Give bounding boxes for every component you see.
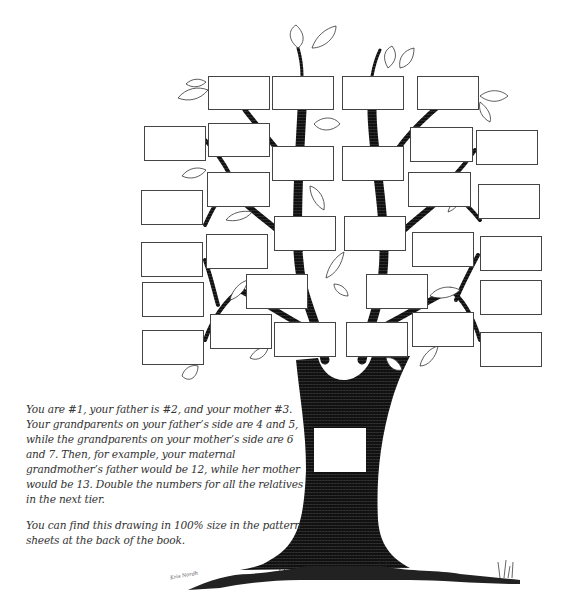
leaf <box>314 118 340 130</box>
name-box <box>478 184 540 219</box>
name-box <box>480 332 542 367</box>
name-box <box>480 236 542 271</box>
leaf <box>479 102 490 122</box>
leaf <box>480 91 508 102</box>
leaf <box>178 88 208 100</box>
name-box <box>476 130 538 165</box>
name-box <box>208 76 270 110</box>
name-box <box>412 312 474 347</box>
name-box <box>342 76 404 110</box>
ground <box>188 566 520 590</box>
name-box <box>412 232 474 267</box>
name-box <box>272 76 334 110</box>
leaf <box>186 79 206 87</box>
leaf <box>290 25 303 48</box>
instructions-caption: You are #1, your father is #2, and your … <box>26 402 306 559</box>
name-box <box>314 428 366 472</box>
name-box <box>274 216 336 251</box>
name-box <box>141 242 203 277</box>
name-box <box>480 280 542 315</box>
pattern-sheet-note: You can find this drawing in 100% size i… <box>26 518 306 548</box>
leaf <box>420 346 438 366</box>
name-box <box>342 146 404 181</box>
leaf <box>182 168 206 178</box>
name-box <box>207 172 270 207</box>
name-box <box>142 330 204 365</box>
leaf <box>312 26 336 48</box>
name-box <box>210 314 272 349</box>
leaf <box>250 347 268 359</box>
name-box <box>274 322 336 357</box>
name-box <box>408 172 471 207</box>
leaf <box>226 211 252 220</box>
leaf <box>400 48 414 68</box>
name-box <box>344 216 406 251</box>
leaf <box>326 252 344 278</box>
leaf <box>182 365 198 379</box>
name-box <box>142 282 204 317</box>
name-box <box>366 274 428 309</box>
name-box <box>417 76 479 110</box>
name-box <box>272 146 334 181</box>
name-box <box>208 123 270 157</box>
name-box <box>144 126 206 161</box>
name-box <box>141 190 203 225</box>
leaf <box>385 46 396 68</box>
name-box <box>206 234 268 269</box>
leaf <box>310 186 324 210</box>
name-box <box>410 127 473 162</box>
name-box <box>246 274 308 309</box>
numbering-instructions: You are #1, your father is #2, and your … <box>26 402 306 507</box>
name-box <box>346 322 408 357</box>
leaf <box>334 284 348 296</box>
